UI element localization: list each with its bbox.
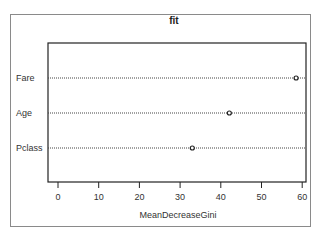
dotchart-plot: FareAgePclass 0102030405060 MeanDecrease… xyxy=(0,0,320,237)
x-tick-label: 20 xyxy=(134,192,144,202)
x-tick-label: 50 xyxy=(256,192,266,202)
data-point xyxy=(190,146,194,150)
category-rows: FareAgePclass xyxy=(16,73,306,153)
data-point xyxy=(294,76,298,80)
data-point xyxy=(227,111,231,115)
x-tick-label: 10 xyxy=(94,192,104,202)
category-label: Pclass xyxy=(16,143,43,153)
x-tick-label: 30 xyxy=(175,192,185,202)
x-tick-label: 0 xyxy=(55,192,60,202)
x-axis-label: MeanDecreaseGini xyxy=(139,210,216,220)
x-tick-label: 40 xyxy=(216,192,226,202)
category-label: Fare xyxy=(16,73,35,83)
category-label: Age xyxy=(16,108,32,118)
x-tick-label: 60 xyxy=(297,192,307,202)
x-axis: 0102030405060 xyxy=(55,182,307,202)
